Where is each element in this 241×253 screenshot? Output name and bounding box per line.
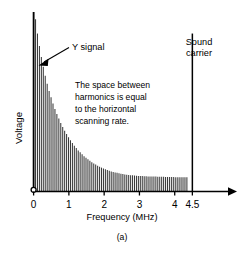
note-line-2: harmonics is equal [75, 92, 147, 102]
x-axis-tick-label: 0 [31, 199, 37, 210]
x-axis-tick-label: 2 [101, 199, 107, 210]
x-axis-tick-label: 3 [137, 199, 143, 210]
x-axis-tick-label: 4 [172, 199, 178, 210]
spectrum-chart: 012344.5 Voltage Frequency (MHz) (a) Y s… [0, 0, 241, 253]
x-axis-label: Frequency (MHz) [87, 212, 158, 222]
y-signal-annotation-label: Y signal [72, 42, 105, 52]
sound-carrier-label-line2: carrier [186, 48, 212, 58]
y-axis-label: Voltage [13, 112, 24, 144]
figure-caption: (a) [117, 232, 128, 242]
note-line-4: scanning rate. [75, 116, 129, 126]
note-line-3: to the horizontal [75, 104, 136, 114]
x-axis-tick-label: 1 [66, 199, 72, 210]
note-line-1: The space between [75, 80, 150, 90]
sound-carrier-label-line1: Sound [186, 37, 213, 47]
x-axis-tick-label: 4.5 [185, 199, 199, 210]
figure-container: 012344.5 Voltage Frequency (MHz) (a) Y s… [0, 0, 241, 253]
